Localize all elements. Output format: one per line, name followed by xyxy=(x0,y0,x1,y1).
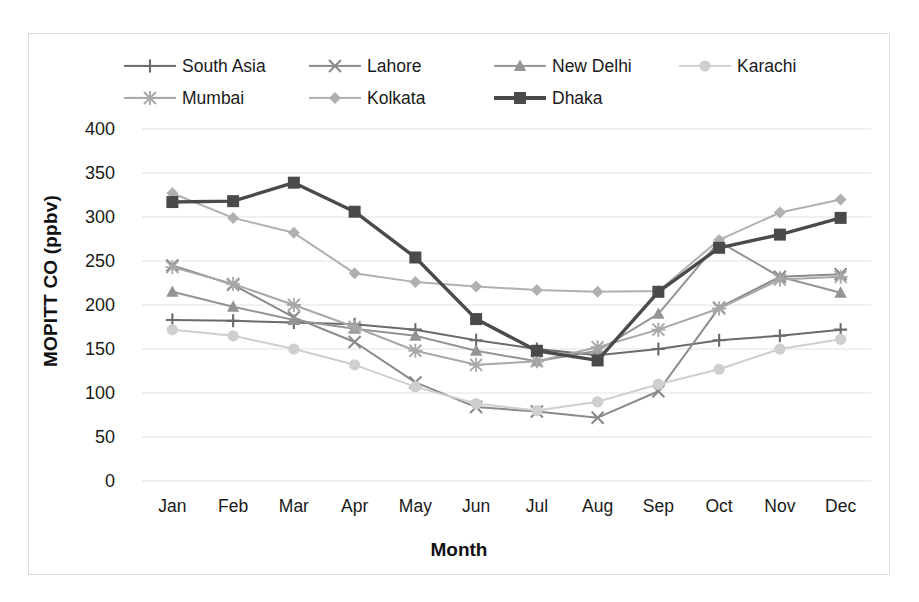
data-point-marker xyxy=(592,354,604,366)
data-point-marker xyxy=(713,334,726,347)
data-point-marker xyxy=(287,298,301,312)
data-point-marker xyxy=(835,334,846,345)
data-point-marker xyxy=(592,396,603,407)
data-point-marker xyxy=(166,196,178,208)
data-point-marker xyxy=(713,242,725,254)
data-point-marker xyxy=(531,345,543,357)
data-point-marker xyxy=(166,285,178,296)
data-point-marker xyxy=(409,251,421,263)
data-point-marker xyxy=(349,267,361,279)
data-point-marker xyxy=(349,359,360,370)
series-line xyxy=(172,320,840,355)
data-point-marker xyxy=(167,324,178,335)
series-new-delhi xyxy=(166,235,847,366)
data-point-marker xyxy=(773,329,786,342)
data-point-marker xyxy=(469,358,483,372)
data-point-marker xyxy=(651,323,665,337)
series-lahore xyxy=(166,259,846,423)
data-point-marker xyxy=(410,381,421,392)
data-point-marker xyxy=(591,340,605,354)
data-point-marker xyxy=(531,284,543,296)
data-point-marker xyxy=(348,320,362,334)
data-point-marker xyxy=(349,206,361,218)
data-point-marker xyxy=(773,272,787,286)
data-point-marker xyxy=(714,364,725,375)
plot-area: MOPITT CO (ppbv) Month 40035030025020015… xyxy=(29,34,889,574)
chart-figure: South AsiaLahoreNew DelhiKarachiMumbaiKo… xyxy=(28,33,890,575)
data-point-marker xyxy=(227,212,239,224)
data-point-marker xyxy=(835,212,847,224)
data-point-marker xyxy=(226,277,240,291)
data-point-marker xyxy=(652,286,664,298)
data-point-marker xyxy=(592,286,604,298)
data-point-marker xyxy=(227,195,239,207)
data-point-marker xyxy=(471,398,482,409)
data-point-marker xyxy=(774,343,785,354)
data-point-marker xyxy=(409,276,421,288)
data-point-marker xyxy=(712,302,726,316)
data-point-marker xyxy=(288,227,300,239)
data-point-marker xyxy=(470,313,482,325)
data-point-marker xyxy=(349,336,361,348)
data-point-marker xyxy=(228,330,239,341)
data-point-marker xyxy=(774,229,786,241)
series-line xyxy=(172,330,840,411)
data-point-marker xyxy=(288,343,299,354)
data-point-marker xyxy=(834,270,848,284)
data-point-marker xyxy=(652,343,665,356)
data-point-marker xyxy=(653,379,664,390)
data-point-marker xyxy=(531,405,542,416)
data-point-marker xyxy=(288,177,300,189)
data-point-marker xyxy=(227,314,240,327)
chart-svg xyxy=(29,34,891,576)
series-line xyxy=(172,183,840,361)
data-point-marker xyxy=(470,281,482,293)
data-point-marker xyxy=(835,193,847,205)
data-point-marker xyxy=(408,344,422,358)
series-south-asia xyxy=(166,313,847,361)
data-point-marker xyxy=(165,260,179,274)
